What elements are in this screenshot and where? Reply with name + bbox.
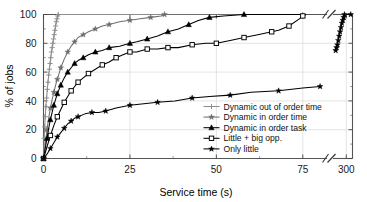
y-tick-label: 0 — [31, 153, 37, 164]
y-axis-title: % of jobs — [3, 64, 15, 107]
service-time-cdf-chart: 0255075300 020406080100 Service time (s)… — [0, 0, 367, 202]
y-tick-label: 100 — [20, 9, 37, 20]
legend-item-label: Dynamic out of order time — [224, 102, 323, 112]
x-tick-label: 300 — [338, 164, 355, 175]
x-axis-title: Service time (s) — [160, 186, 233, 198]
x-tick-label: 50 — [211, 164, 223, 175]
x-tick-label: 0 — [41, 164, 47, 175]
legend-item-label: Dynamic in order task — [224, 123, 308, 133]
y-tick-label: 40 — [25, 96, 37, 107]
legend-item-label: Dynamic in order time — [224, 112, 308, 122]
legend-item-label: Only little — [224, 144, 260, 154]
chart-figure: 0255075300 020406080100 Service time (s)… — [0, 0, 367, 202]
y-tick-label: 20 — [25, 124, 37, 135]
x-tick-label: 75 — [297, 164, 309, 175]
y-tick-label: 80 — [25, 38, 37, 49]
y-tick-label: 60 — [25, 67, 37, 78]
legend-item-label: Little + big opp. — [224, 133, 283, 143]
x-tick-label: 25 — [124, 164, 136, 175]
